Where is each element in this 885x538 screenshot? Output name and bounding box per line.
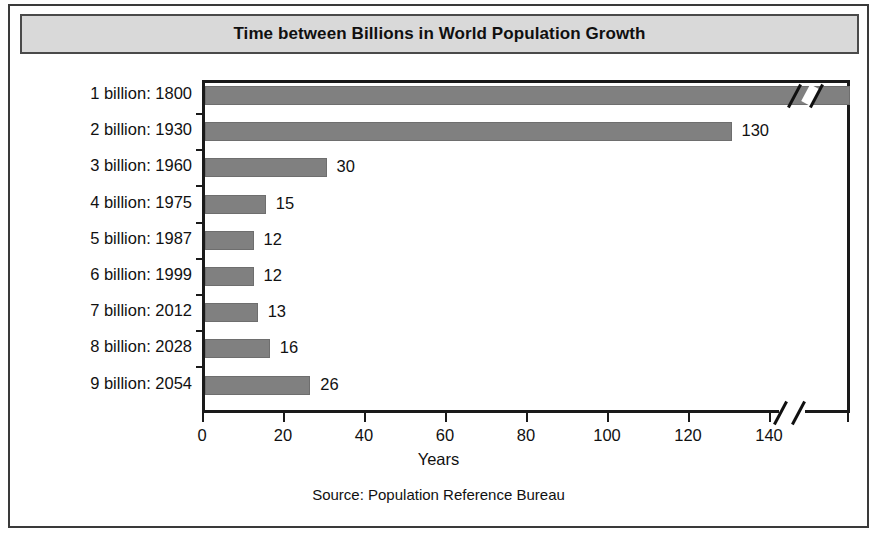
y-axis-label: 8 billion: 2028 <box>32 337 192 356</box>
bar-value-label: 130 <box>742 121 770 140</box>
y-axis-label: 9 billion: 2054 <box>32 374 192 393</box>
x-axis-tick <box>688 413 690 422</box>
bar-value-label: 26 <box>320 375 338 394</box>
bar-value-label: 15 <box>276 194 294 213</box>
x-axis-tick <box>607 413 609 422</box>
chart-figure: Time between Billions in World Populatio… <box>8 4 869 528</box>
y-axis-label: 4 billion: 1975 <box>32 193 192 212</box>
y-axis-tick <box>196 149 205 151</box>
y-axis-category-labels: 1 billion: 18002 billion: 19303 billion:… <box>32 62 192 402</box>
source-note: Source: Population Reference Bureau <box>10 486 867 503</box>
x-axis-tick <box>769 413 771 422</box>
x-axis-tick <box>445 413 447 422</box>
x-axis-tick <box>364 413 366 422</box>
bar <box>205 195 266 214</box>
chart-area: 1 billion: 18002 billion: 19303 billion:… <box>10 62 867 526</box>
y-axis-tick <box>196 185 205 187</box>
x-axis-tick-label: 120 <box>674 426 702 445</box>
x-axis-tick <box>202 413 204 422</box>
bar <box>205 231 254 250</box>
y-axis-label: 3 billion: 1960 <box>32 156 192 175</box>
bar <box>205 339 270 358</box>
y-axis-tick <box>196 366 205 368</box>
chart-title-box: Time between Billions in World Populatio… <box>20 14 859 54</box>
y-axis-label: 7 billion: 2012 <box>32 301 192 320</box>
bar <box>205 122 732 141</box>
bar <box>205 376 310 395</box>
bar <box>205 303 258 322</box>
y-axis-label: 2 billion: 1930 <box>32 120 192 139</box>
bar-value-label: 13 <box>268 302 286 321</box>
x-axis-tick-label: 40 <box>355 426 373 445</box>
x-axis-tick <box>526 413 528 422</box>
y-axis-tick <box>196 113 205 115</box>
bar-value-label: 12 <box>264 230 282 249</box>
bar <box>205 158 327 177</box>
bar-value-label: 12 <box>264 266 282 285</box>
y-axis-label: 1 billion: 1800 <box>32 84 192 103</box>
plot-area: 13030151212131626 <box>202 80 850 410</box>
bar-value-label: 16 <box>280 338 298 357</box>
y-axis-label: 6 billion: 1999 <box>32 265 192 284</box>
x-axis-end-tick <box>847 413 849 422</box>
x-axis-tick-label: 20 <box>274 426 292 445</box>
x-axis-tick-label: 80 <box>517 426 535 445</box>
x-axis-tick-label: 100 <box>593 426 621 445</box>
x-axis-tick-label: 60 <box>436 426 454 445</box>
x-axis-title: Years <box>10 450 867 469</box>
y-axis-tick <box>196 294 205 296</box>
y-axis-tick <box>196 258 205 260</box>
x-axis: 020406080100120140 <box>202 410 850 413</box>
bar <box>205 267 254 286</box>
bar <box>205 86 850 105</box>
x-axis-tick-label: 140 <box>755 426 783 445</box>
y-axis-label: 5 billion: 1987 <box>32 229 192 248</box>
y-axis-tick <box>196 222 205 224</box>
page-title: Time between Billions in World Populatio… <box>233 24 645 44</box>
y-axis-tick <box>196 330 205 332</box>
x-axis-tick-label: 0 <box>197 426 206 445</box>
bar-value-label: 30 <box>337 157 355 176</box>
x-axis-tick <box>283 413 285 422</box>
